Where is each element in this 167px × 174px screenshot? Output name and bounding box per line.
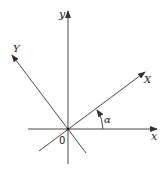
origin-label: 0 [59, 135, 65, 146]
Y-axis-label: Y [13, 43, 21, 54]
rotated-axes-diagram: y x X Y 0 α [0, 0, 167, 174]
angle-arc [97, 110, 103, 129]
x-axis-label: x [151, 130, 158, 143]
angle-label: α [104, 114, 111, 125]
X-axis-label: X [143, 74, 152, 85]
y-axis-label: y [58, 8, 66, 21]
Y-axis-rotated [12, 55, 86, 153]
origin-point [67, 128, 70, 131]
